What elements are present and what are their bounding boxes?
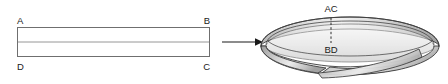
seam-label-bd: BD — [324, 44, 337, 55]
figure-canvas: A B D C — [0, 0, 448, 84]
vertex-label-d: D — [17, 61, 24, 72]
flat-strip-group: A B D C — [17, 15, 210, 72]
transform-arrow-group — [222, 38, 263, 46]
vertex-label-a: A — [17, 15, 24, 26]
mobius-band-group: AC BD — [261, 3, 439, 78]
seam-label-ac: AC — [324, 3, 337, 14]
mobius-strip-figure: A B D C — [0, 0, 448, 84]
vertex-label-c: C — [203, 61, 210, 72]
vertex-label-b: B — [204, 15, 210, 26]
